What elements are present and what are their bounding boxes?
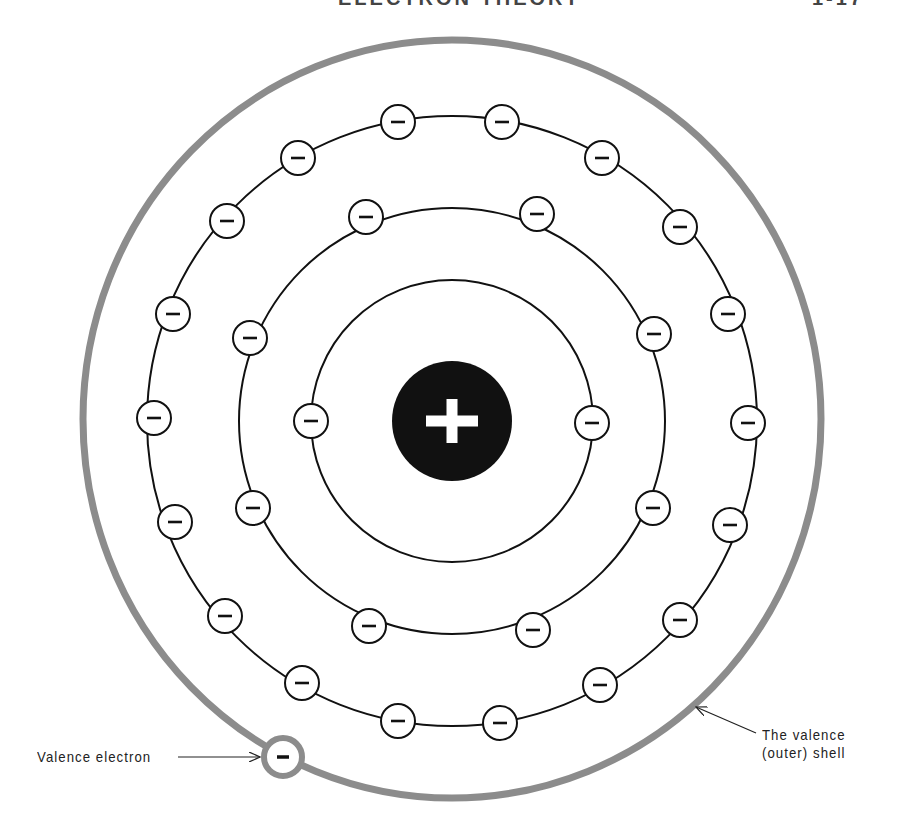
- valence-shell-pointer-arrow: [696, 707, 756, 733]
- electron-second-shell: [233, 321, 267, 355]
- valence-electron-label: Valence electron: [37, 748, 151, 766]
- electron-third-shell: [663, 210, 697, 244]
- valence-shell-label-line2: (outer) shell: [762, 744, 846, 762]
- electron-third-shell: [583, 668, 617, 702]
- electron-third-shell: [281, 141, 315, 175]
- electron-second-shell: [636, 491, 670, 525]
- electron-second-shell: [520, 197, 554, 231]
- electron-third-shell: [285, 666, 319, 700]
- electron-third-shell: [210, 204, 244, 238]
- atom-diagram: [0, 0, 897, 837]
- valence-shell-label: The valence (outer) shell: [762, 726, 846, 762]
- electron-second-shell: [349, 200, 383, 234]
- electron-first-shell: [294, 404, 328, 438]
- electron-third-shell: [381, 105, 415, 139]
- electron-second-shell: [352, 609, 386, 643]
- electron-third-shell: [381, 704, 415, 738]
- electron-third-shell: [585, 141, 619, 175]
- electron-third-shell: [711, 297, 745, 331]
- valence-shell-label-line1: The valence: [762, 726, 846, 744]
- electron-third-shell: [485, 105, 519, 139]
- valence-electron: [264, 738, 302, 776]
- electron-third-shell: [663, 603, 697, 637]
- electron-third-shell: [156, 297, 190, 331]
- electron-second-shell: [236, 491, 270, 525]
- electron-second-shell: [516, 613, 550, 647]
- nucleus: [392, 361, 512, 481]
- electron-third-shell: [731, 406, 765, 440]
- electron-first-shell: [575, 406, 609, 440]
- electron-third-shell: [208, 599, 242, 633]
- electron-third-shell: [137, 401, 171, 435]
- electron-third-shell: [483, 706, 517, 740]
- electron-second-shell: [637, 317, 671, 351]
- electron-third-shell: [713, 508, 747, 542]
- electron-third-shell: [158, 505, 192, 539]
